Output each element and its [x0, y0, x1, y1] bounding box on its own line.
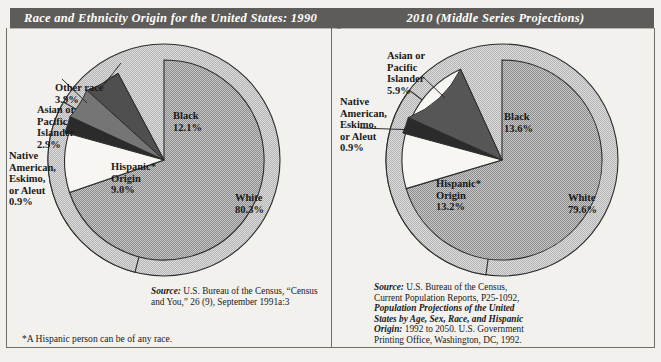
source-line2-2010: Current Population Reports, P25-1092, [374, 293, 624, 304]
panel-title-1990-text: Race and Ethnicity Origin for the United… [24, 11, 317, 26]
frame-bottom-rule [6, 347, 655, 348]
panel-2010: Asian or Pacific Islander 5.9% Native Am… [332, 28, 654, 347]
label-asian-2010: Asian or Pacific Islander 5.9% [387, 50, 425, 96]
label-native-1990: Native American, Eskimo, or Aleut 0.9% [9, 150, 56, 208]
panel-1990: Other race 3.9% Asian or Pacific Islande… [7, 28, 331, 347]
label-white-1990: White 80.3% [235, 192, 264, 215]
label-other-race-1990: Other race 3.9% [55, 82, 104, 105]
source-label-2010: Source: [374, 282, 404, 292]
label-native-2010: Native American, Eskimo, or Aleut 0.9% [340, 96, 387, 154]
label-black-1990: Black 12.1% [173, 110, 202, 133]
pie-chart-2010 [332, 28, 661, 288]
label-asian-1990: Asian or Pacific Islander 2.9% [37, 104, 75, 150]
label-white-2010: White 79.6% [568, 192, 597, 215]
source-note-1990: Source: U.S. Bureau of the Census, “Cens… [151, 286, 331, 307]
source-label-1990: Source: [151, 286, 181, 296]
figure-root: Race and Ethnicity Origin for the United… [0, 0, 661, 362]
panel-title-2010-text: 2010 (Middle Series Projections) [407, 11, 585, 26]
source-line3-2010: Population Projections of the United [374, 303, 624, 314]
panel-title-2010: 2010 (Middle Series Projections) [337, 8, 654, 28]
source-line4-2010: States by Age, Sex, Race, and Hispanic [374, 314, 624, 325]
label-hispanic-2010: Hispanic* Origin 13.2% [436, 178, 481, 213]
label-black-2010: Black 13.6% [504, 111, 533, 134]
label-hispanic-1990: Hispanic* Origin 9.0% [111, 161, 156, 196]
panel-title-1990: Race and Ethnicity Origin for the United… [10, 8, 341, 28]
source-line5-italic-2010: Origin: [374, 324, 402, 334]
footnote-hispanic: *A Hispanic person can be of any race. [22, 333, 172, 344]
source-line1-2010: U.S. Bureau of the Census, [404, 282, 507, 292]
source-line6-2010: Printing Office, Washington, DC, 1992. [374, 335, 624, 346]
source-note-2010: Source: U.S. Bureau of the Census, Curre… [374, 282, 624, 346]
source-line5-rest-2010: 1992 to 2050. U.S. Government [402, 324, 523, 334]
